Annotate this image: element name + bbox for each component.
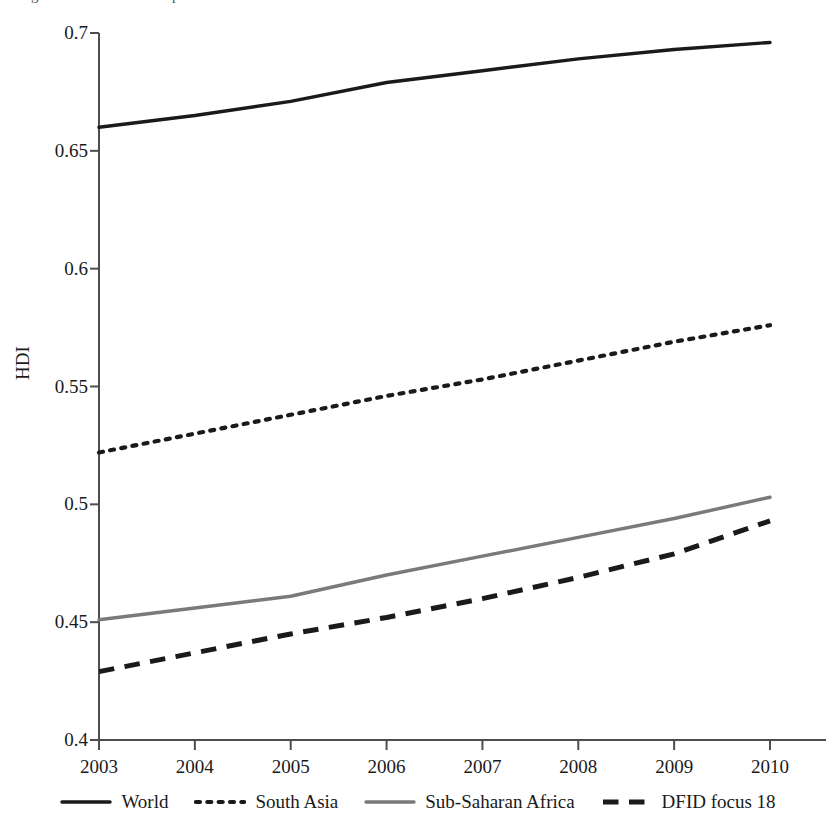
x-axis-tick-label: 2007 bbox=[442, 757, 522, 776]
y-axis-tick-label: 0.65 bbox=[20, 141, 88, 160]
y-axis-label: HDI bbox=[12, 346, 34, 380]
series-line-dfid-focus-18 bbox=[99, 521, 770, 672]
series-line-south-asia bbox=[99, 325, 770, 452]
x-axis-tick-label: 2006 bbox=[347, 757, 427, 776]
legend-item[interactable]: DFID focus 18 bbox=[601, 792, 776, 811]
axes-layer bbox=[90, 33, 826, 750]
legend-swatch-solid bbox=[60, 795, 112, 809]
legend-swatch-solid bbox=[364, 795, 416, 809]
y-axis-tick-label: 0.5 bbox=[20, 494, 88, 513]
x-axis-tick-label: 2003 bbox=[59, 757, 139, 776]
x-axis-tick-label: 2010 bbox=[730, 757, 810, 776]
legend-label: DFID focus 18 bbox=[662, 792, 776, 811]
legend-label: South Asia bbox=[255, 792, 338, 811]
x-axis-tick-label: 2004 bbox=[155, 757, 235, 776]
line-chart bbox=[0, 0, 836, 780]
figure-container: Figure 3: Human Development Index HDI 0.… bbox=[0, 0, 836, 821]
plot-area: HDI 0.40.450.50.550.60.650.7 20032004200… bbox=[0, 0, 836, 780]
legend-swatch-dotted bbox=[194, 795, 246, 809]
series-line-sub-saharan-africa bbox=[99, 497, 770, 620]
x-axis-tick-label: 2008 bbox=[538, 757, 618, 776]
series-layer bbox=[99, 42, 770, 671]
x-axis-tick-label: 2009 bbox=[634, 757, 714, 776]
legend-label: World bbox=[121, 792, 168, 811]
y-axis-tick-label: 0.7 bbox=[20, 23, 88, 42]
chart-legend: WorldSouth AsiaSub-Saharan AfricaDFID fo… bbox=[0, 782, 836, 821]
legend-label: Sub-Saharan Africa bbox=[425, 792, 574, 811]
y-axis-tick-label: 0.55 bbox=[20, 377, 88, 396]
y-axis-tick-label: 0.4 bbox=[20, 730, 88, 749]
legend-item[interactable]: Sub-Saharan Africa bbox=[364, 792, 574, 811]
x-axis-tick-label: 2005 bbox=[251, 757, 331, 776]
y-axis-tick-label: 0.6 bbox=[20, 259, 88, 278]
y-axis-tick-label: 0.45 bbox=[20, 612, 88, 631]
legend-item[interactable]: World bbox=[60, 792, 168, 811]
series-line-world bbox=[99, 42, 770, 127]
legend-item[interactable]: South Asia bbox=[194, 792, 338, 811]
legend-swatch-dashed bbox=[601, 795, 653, 809]
